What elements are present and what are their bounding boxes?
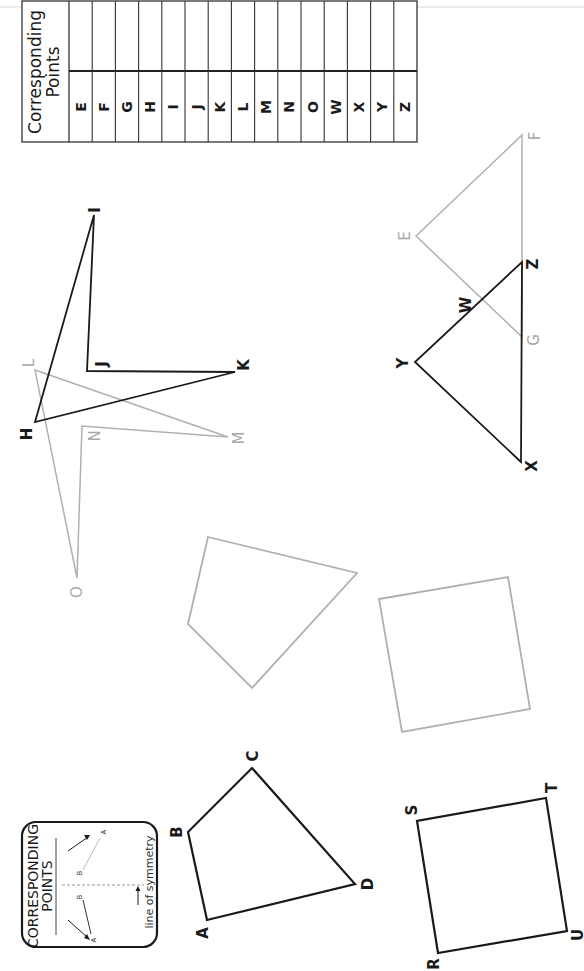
table-column-i: I — [166, 104, 180, 109]
table-column-g: G — [120, 101, 134, 113]
answer-cell-g[interactable] — [116, 2, 137, 69]
label-c: C — [246, 750, 261, 761]
legend-point-b-lower: B — [77, 895, 84, 900]
label-s: S — [405, 805, 420, 816]
legend-title-line-1: CORRESPONDING — [26, 824, 40, 948]
table-column-f: F — [97, 102, 111, 112]
label-d: D — [361, 878, 376, 890]
legend-caption: line of symmetry — [144, 835, 155, 928]
quadrilateral-image-2 — [379, 577, 530, 732]
legend-point-b-upper: B — [77, 871, 84, 876]
quadrilateral-rstu — [417, 798, 567, 953]
answer-cell-w[interactable] — [325, 2, 346, 69]
label-u: U — [571, 929, 584, 941]
polygon-hijk — [35, 215, 235, 422]
table-column-n: N — [282, 101, 296, 113]
legend-point-a-upper: A — [101, 830, 108, 835]
polygon-lmno — [35, 370, 228, 578]
answer-cell-e[interactable] — [70, 2, 91, 69]
label-j: J — [95, 361, 110, 367]
label-r: R — [427, 958, 442, 970]
quadrilateral-abcd — [188, 768, 355, 920]
label-y: Y — [396, 358, 411, 369]
label-x: X — [525, 460, 540, 472]
table-column-y: Y — [375, 102, 389, 112]
table-column-e: E — [74, 102, 88, 112]
legend-title: CORRESPONDING POINTS — [26, 824, 54, 948]
label-f: F — [528, 132, 543, 141]
label-e: E — [398, 231, 413, 240]
table-column-m: M — [259, 100, 273, 114]
label-a: A — [196, 927, 211, 939]
quadrilateral-image-1 — [188, 537, 357, 688]
table-column-z: Z — [398, 102, 412, 112]
label-l: L — [22, 359, 37, 367]
table-column-h: H — [143, 101, 157, 113]
label-k: K — [237, 359, 252, 371]
answer-cell-l[interactable] — [232, 2, 253, 69]
answer-cell-j[interactable] — [186, 2, 207, 69]
table-column-l: L — [236, 103, 250, 112]
label-w: W — [459, 297, 474, 314]
legend-point-a-lower: A — [91, 938, 98, 943]
answer-cell-h[interactable] — [140, 2, 161, 69]
table-column-k: K — [213, 102, 227, 113]
label-n: N — [88, 430, 103, 441]
answer-cell-y[interactable] — [372, 2, 393, 69]
label-i: I — [88, 207, 103, 213]
table-column-x: X — [352, 102, 366, 113]
table-column-w: W — [329, 99, 343, 114]
label-g: G — [527, 334, 542, 346]
answer-cell-z[interactable] — [395, 2, 416, 69]
answer-cell-i[interactable] — [163, 2, 184, 69]
table-header: Corresponding Points — [27, 10, 63, 134]
legend-title-line-2: POINTS — [40, 824, 54, 948]
answer-cell-o[interactable] — [302, 2, 323, 69]
table-column-o: O — [306, 101, 320, 113]
answer-cell-k[interactable] — [209, 2, 230, 69]
table-column-j: J — [190, 104, 204, 109]
triangle-xyz — [415, 262, 522, 462]
worksheet-canvas — [0, 0, 584, 971]
answer-cell-x[interactable] — [348, 2, 369, 69]
answer-cell-f[interactable] — [93, 2, 114, 69]
label-t: T — [545, 783, 560, 793]
label-h: H — [20, 428, 35, 441]
label-z: Z — [526, 259, 541, 270]
table-header-line-2: Points — [45, 10, 63, 134]
label-b: B — [170, 826, 185, 837]
answer-cell-n[interactable] — [279, 2, 300, 69]
label-m: M — [232, 432, 247, 445]
label-o: O — [70, 586, 85, 598]
answer-cell-m[interactable] — [256, 2, 277, 69]
